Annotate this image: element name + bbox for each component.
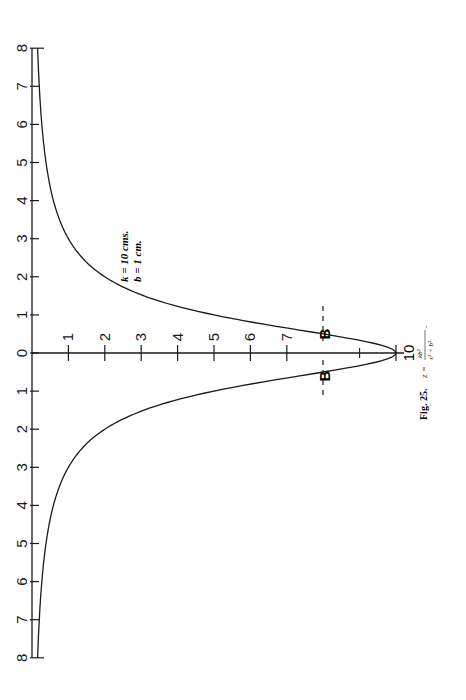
svg-text:10: 10 — [400, 345, 417, 362]
param-k: k = 10 cms. — [118, 231, 130, 283]
svg-text:5: 5 — [13, 158, 30, 166]
x-tick-label: 5 — [13, 539, 30, 547]
x-tick-label: 7 — [13, 82, 30, 90]
x-tick-label: 1 — [13, 387, 30, 395]
x-tick-label: 6 — [13, 577, 30, 585]
formula-lhs: z = — [419, 366, 429, 379]
svg-text:1: 1 — [13, 387, 30, 395]
svg-text:4: 4 — [13, 196, 30, 204]
x-tick-label: 8 — [13, 654, 30, 662]
formula-denominator: x² + b² — [427, 340, 435, 361]
svg-text:7: 7 — [13, 616, 30, 624]
z-tick-label: 6 — [241, 333, 258, 341]
x-tick-label: 1 — [13, 311, 30, 319]
z-tick-label: 2 — [96, 333, 113, 341]
svg-text:3: 3 — [132, 333, 149, 341]
svg-text:B: B — [316, 328, 333, 339]
svg-text:0: 0 — [13, 349, 30, 357]
formula-numerator: kb² — [416, 348, 424, 358]
svg-text:5: 5 — [205, 333, 222, 341]
axes — [30, 48, 404, 658]
marker-b-right: B — [316, 328, 333, 339]
z-tick-label: 7 — [278, 333, 295, 341]
param-b: b = 1 cm. — [131, 240, 143, 282]
x-tick-label: 4 — [13, 501, 30, 509]
svg-text:5: 5 — [13, 539, 30, 547]
svg-text:6: 6 — [13, 120, 30, 128]
svg-text:7: 7 — [278, 333, 295, 341]
svg-text:2: 2 — [13, 273, 30, 281]
figure-25: 876543210123456781234567 k = 10 cms. b =… — [0, 0, 466, 700]
z-tick-label: 4 — [169, 333, 186, 341]
svg-text:8: 8 — [13, 44, 30, 52]
svg-text:6: 6 — [13, 577, 30, 585]
marker-b-left: B — [316, 370, 333, 381]
svg-text:4: 4 — [13, 501, 30, 509]
x-tick-label: 3 — [13, 235, 30, 243]
svg-text:2: 2 — [96, 333, 113, 341]
z-tick-label: 3 — [132, 333, 149, 341]
svg-text:3: 3 — [13, 235, 30, 243]
svg-text:8: 8 — [13, 654, 30, 662]
x-tick-label: 2 — [13, 273, 30, 281]
svg-text:2: 2 — [13, 425, 30, 433]
formula-suffix: . — [419, 326, 429, 328]
x-tick-label: 0 — [13, 349, 30, 357]
svg-text:6: 6 — [241, 333, 258, 341]
x-tick-label: 5 — [13, 158, 30, 166]
caption: Fig. 25. z = kb² x² + b² . — [416, 326, 435, 420]
x-tick-label: 7 — [13, 616, 30, 624]
x-tick-label: 8 — [13, 44, 30, 52]
svg-text:3: 3 — [13, 463, 30, 471]
x-tick-label: 2 — [13, 425, 30, 433]
z-tick-label: 5 — [205, 333, 222, 341]
peak-label: 10 — [400, 345, 417, 362]
params-block: k = 10 cms. b = 1 cm. — [118, 231, 143, 283]
x-tick-label: 6 — [13, 120, 30, 128]
svg-text:7: 7 — [13, 82, 30, 90]
svg-text:B: B — [316, 370, 333, 381]
x-tick-label: 3 — [13, 463, 30, 471]
caption-label: Fig. 25. — [418, 388, 429, 420]
svg-text:1: 1 — [13, 311, 30, 319]
x-tick-label: 4 — [13, 196, 30, 204]
z-tick-label: 1 — [59, 333, 76, 341]
svg-text:1: 1 — [59, 333, 76, 341]
svg-text:4: 4 — [169, 333, 186, 341]
